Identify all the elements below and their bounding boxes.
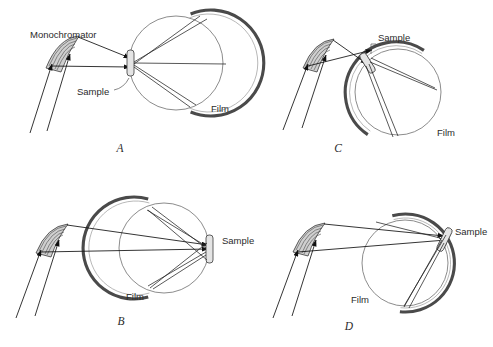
- sample-label: Sample: [77, 86, 109, 97]
- diffracted-ray-5: [148, 210, 207, 260]
- monochromatic-beam-2: [67, 225, 208, 245]
- diffracted-ray-4: [134, 65, 196, 105]
- film-label: Film: [126, 291, 144, 302]
- diffracted-ray-2: [134, 19, 207, 62]
- sample-label: Sample: [455, 226, 487, 237]
- monochromatic-beam-2: [78, 37, 130, 58]
- panel-letter-a: A: [115, 142, 124, 154]
- sample-label: Sample: [378, 32, 410, 43]
- incident-beam-1: [30, 64, 52, 133]
- panel-letter-b: B: [117, 315, 124, 327]
- sample-leader: [114, 78, 129, 90]
- film-label: Film: [351, 294, 369, 305]
- diffracted-ray-4: [366, 66, 393, 137]
- monochromator-label: Monochromator: [30, 29, 97, 40]
- diffracted-ray-1: [134, 63, 226, 64]
- diffracted-ray-2: [152, 207, 206, 248]
- monochromatic-beam-1: [41, 249, 208, 252]
- film-label: Film: [211, 103, 229, 114]
- panel-b: Sample Film B: [16, 197, 254, 327]
- diffracted-ray-1: [371, 58, 435, 88]
- monochromatic-beam-1: [298, 240, 446, 252]
- panel-letter-c: C: [334, 142, 342, 154]
- diffraction-figure: Monochromator Sample Film A: [0, 0, 493, 347]
- film-arc: [345, 42, 424, 135]
- monochromator: [303, 39, 334, 72]
- panel-c: Sample Film C: [283, 32, 455, 154]
- diffracted-ray-3: [134, 16, 200, 64]
- diffracted-ray-2: [370, 62, 437, 90]
- figure-canvas: Monochromator Sample Film A: [0, 0, 493, 347]
- diffracted-ray-3: [369, 64, 398, 136]
- sample-holder: [127, 50, 134, 76]
- panel-letter-d: D: [344, 320, 354, 332]
- diffracted-ray-4: [153, 255, 206, 289]
- diffracted-ray-3: [148, 252, 206, 286]
- diffracted-ray-4: [404, 235, 446, 306]
- sample-label: Sample: [222, 235, 254, 246]
- panel-d: Sample Film D: [273, 214, 487, 332]
- camera-circle: [362, 220, 448, 306]
- diffracted-ray-5: [134, 67, 190, 107]
- film-arc: [83, 197, 148, 299]
- sample-holder: [206, 235, 213, 263]
- film-arc: [191, 10, 264, 116]
- film-arc-inner-edge: [189, 14, 257, 112]
- film-label: Film: [437, 127, 455, 138]
- panel-a: Monochromator Sample Film A: [30, 10, 264, 154]
